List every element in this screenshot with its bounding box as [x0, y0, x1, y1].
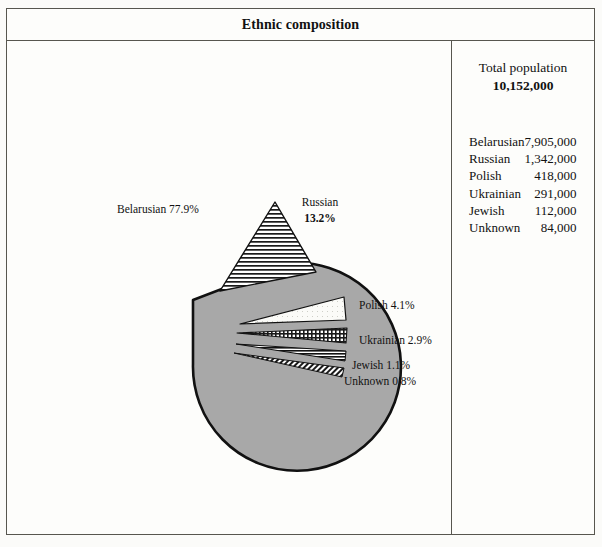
table-cell-value: 7,905,000: [525, 133, 577, 150]
table-cell-value: 112,000: [525, 202, 577, 219]
chart-title-bar: Ethnic composition: [7, 9, 594, 41]
table-row[interactable]: Jewish 112,000: [469, 202, 577, 219]
pie-label-polish: Polish 4.1%: [359, 299, 415, 311]
total-population-value: 10,152,000: [452, 77, 594, 95]
pie-label-russian-pct: 13.2%: [304, 212, 336, 224]
pie-label-belarusian: Belarusian 77.9%: [117, 203, 199, 215]
population-table: Belarusian 7,905,000 Russian 1,342,000 P…: [469, 133, 577, 236]
table-cell-value: 418,000: [525, 167, 577, 184]
pie-chart-pane: Belarusian 77.9% Russian 13.2% Polish 4.…: [7, 41, 452, 534]
table-row[interactable]: Unknown 84,000: [469, 219, 577, 236]
population-table-pane: Total population 10,152,000 Belarusian 7…: [452, 41, 594, 534]
table-row[interactable]: Russian 1,342,000: [469, 150, 577, 167]
table-row[interactable]: Ukrainian 291,000: [469, 185, 577, 202]
table-cell-name: Ukrainian: [469, 185, 525, 202]
table-cell-name: Unknown: [469, 219, 525, 236]
table-cell-value: 1,342,000: [525, 150, 577, 167]
table-row[interactable]: Polish 418,000: [469, 167, 577, 184]
page-root: Ethnic composition: [0, 0, 602, 547]
pie-label-jewish: Jewish 1.1%: [352, 359, 411, 371]
pie-label-ukrainian: Ukrainian 2.9%: [359, 334, 432, 346]
table-cell-name: Russian: [469, 150, 525, 167]
table-row[interactable]: Belarusian 7,905,000: [469, 133, 577, 150]
table-cell-name: Jewish: [469, 202, 525, 219]
table-cell-value: 84,000: [525, 219, 577, 236]
table-cell-name: Belarusian: [469, 133, 525, 150]
total-population-block: Total population 10,152,000: [452, 59, 594, 95]
chart-body: Belarusian 77.9% Russian 13.2% Polish 4.…: [7, 41, 594, 534]
chart-frame: Ethnic composition: [6, 8, 595, 535]
table-cell-value: 291,000: [525, 185, 577, 202]
pie-label-unknown: Unknown 0.8%: [344, 375, 417, 387]
table-cell-name: Polish: [469, 167, 525, 184]
pie-chart-svg: Belarusian 77.9% Russian 13.2% Polish 4.…: [7, 41, 452, 534]
total-population-label: Total population: [452, 59, 594, 77]
pie-label-russian-name: Russian: [302, 196, 339, 208]
page-title: Ethnic composition: [242, 17, 359, 33]
